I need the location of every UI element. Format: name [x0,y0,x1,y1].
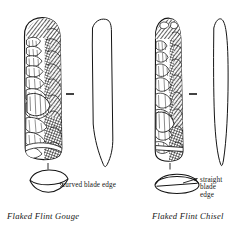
chisel-caption: Flaked Flint Chisel [152,211,224,221]
chisel-blade-edge-annotation-line-3: edge [200,192,214,200]
chisel-face-view [155,18,185,162]
gouge-face-view [24,18,63,160]
gouge-blade-edge-annotation: curved blade edge [62,182,116,190]
gouge-caption: Flaked Flint Gouge [7,211,79,221]
figure-plate: curved blade edge straight blade edge Fl… [0,0,246,233]
